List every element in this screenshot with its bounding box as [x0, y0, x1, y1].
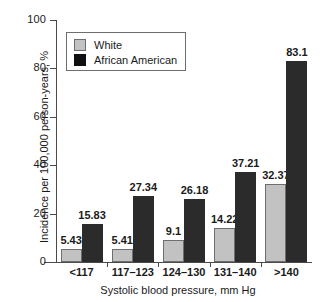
bar-african-american	[235, 172, 256, 262]
x-tick-label: >140	[261, 266, 312, 278]
x-axis-title: Systolic blood pressure, mm Hg	[44, 284, 312, 296]
bar-white	[265, 184, 286, 262]
x-tick-label: 124–130	[158, 266, 209, 278]
x-tick-label: <117	[56, 266, 107, 278]
x-axis-line	[44, 262, 312, 263]
legend-label-african-american: African American	[94, 54, 177, 66]
bar-chart: 020406080100 <117117–123124–130131–140>1…	[0, 0, 322, 302]
bar-value-label: 26.18	[176, 185, 213, 196]
legend-item-white: White	[74, 38, 122, 51]
bar-value-label: 27.34	[125, 182, 162, 193]
legend-swatch-african-american	[74, 54, 86, 66]
bar-white	[61, 249, 82, 262]
y-tick-label: 100	[27, 14, 46, 25]
bar-white	[163, 240, 184, 262]
bar-value-label: 83.1	[278, 47, 315, 58]
bar-african-american	[133, 196, 154, 262]
bar-value-label: 37.21	[227, 158, 264, 169]
x-tick-label: 131–140	[210, 266, 261, 278]
legend-swatch-white	[74, 39, 86, 51]
y-tick-mark	[50, 262, 56, 263]
bar-white	[214, 228, 235, 262]
x-tick-label: 117–123	[107, 266, 158, 278]
bar-african-american	[184, 199, 205, 262]
legend: White African American	[66, 32, 186, 71]
legend-label-white: White	[94, 39, 122, 51]
y-axis-title: Incidence per 100,000 person-years, %	[38, 26, 50, 268]
bar-african-american	[82, 224, 103, 262]
legend-item-african-american: African American	[74, 53, 177, 66]
bar-value-label: 15.83	[74, 210, 111, 221]
bar-african-american	[286, 61, 307, 262]
bar-white	[112, 249, 133, 262]
